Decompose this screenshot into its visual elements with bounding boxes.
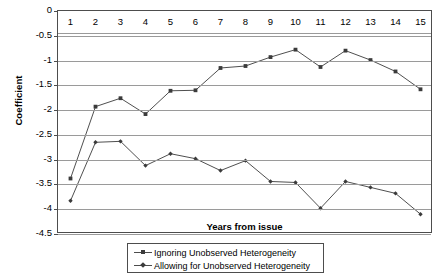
data-point-marker bbox=[244, 64, 248, 68]
legend-marker-diamond-icon bbox=[132, 260, 154, 271]
data-point-marker bbox=[168, 152, 172, 156]
gridline bbox=[58, 36, 431, 37]
gridline bbox=[58, 110, 431, 111]
data-point-marker bbox=[93, 140, 97, 144]
y-axis-tick-label: -2.5 bbox=[16, 129, 52, 139]
x-axis-title: Years from issue bbox=[57, 221, 432, 232]
gridline bbox=[58, 135, 431, 136]
y-axis-tick-label: -0.5 bbox=[16, 30, 52, 40]
data-point-marker bbox=[144, 112, 148, 116]
gridline bbox=[58, 160, 431, 161]
y-axis-tick-label: -1 bbox=[16, 55, 52, 65]
data-point-marker bbox=[169, 89, 173, 93]
y-axis-tick-label: -3 bbox=[16, 154, 52, 164]
legend-label: Allowing for Unobserved Heterogeneity bbox=[154, 261, 310, 271]
data-point-marker bbox=[119, 96, 123, 100]
y-axis-tickmark bbox=[54, 160, 58, 161]
legend-item: Allowing for Unobserved Heterogeneity bbox=[132, 259, 323, 272]
chart-figure: Coefficient 0-0.5-1-1.5-2-2.5-3-3.5-4-4.… bbox=[0, 0, 444, 279]
y-axis-tickmark bbox=[54, 135, 58, 136]
y-axis-tick-label: -3.5 bbox=[16, 178, 52, 188]
data-point-marker bbox=[94, 105, 98, 109]
data-point-marker bbox=[419, 87, 423, 91]
y-axis-tickmark bbox=[54, 36, 58, 37]
y-axis-tickmark bbox=[54, 209, 58, 210]
data-point-marker bbox=[218, 168, 222, 172]
y-axis-tickmark bbox=[54, 110, 58, 111]
gridline bbox=[58, 85, 431, 86]
data-point-marker bbox=[269, 55, 273, 59]
data-point-marker bbox=[69, 177, 73, 181]
gridline bbox=[58, 234, 431, 235]
data-point-marker bbox=[194, 88, 198, 92]
series-lines bbox=[58, 11, 433, 234]
y-axis-tickmark bbox=[54, 85, 58, 86]
y-axis-tickmark bbox=[54, 184, 58, 185]
y-axis-tick-label: -1.5 bbox=[16, 79, 52, 89]
gridline bbox=[58, 184, 431, 185]
chart-legend: Ignoring Unobserved Heterogeneity Allowi… bbox=[127, 243, 324, 273]
y-axis-tick-labels: 0-0.5-1-1.5-2-2.5-3-3.5-4-4.5 bbox=[12, 0, 52, 240]
y-axis-tick-label: -2 bbox=[16, 104, 52, 114]
legend-label: Ignoring Unobserved Heterogeneity bbox=[154, 248, 296, 258]
y-axis-tick-label: 0 bbox=[16, 5, 52, 15]
legend-item: Ignoring Unobserved Heterogeneity bbox=[132, 246, 323, 259]
data-point-marker bbox=[68, 199, 72, 203]
gridline bbox=[58, 61, 431, 62]
y-axis-tickmark bbox=[54, 61, 58, 62]
gridline bbox=[58, 209, 431, 210]
y-axis-tickmark bbox=[54, 11, 58, 12]
data-point-marker bbox=[294, 48, 298, 52]
data-point-marker bbox=[368, 185, 372, 189]
y-axis-tickmark bbox=[54, 234, 58, 235]
plot-area: 123456789101112131415 bbox=[57, 10, 432, 233]
data-point-marker bbox=[319, 65, 323, 69]
data-point-marker bbox=[344, 49, 348, 53]
legend-marker-square-icon bbox=[132, 247, 154, 258]
data-point-marker bbox=[394, 70, 398, 74]
y-axis-tick-label: -4.5 bbox=[16, 228, 52, 238]
y-axis-tick-label: -4 bbox=[16, 203, 52, 213]
data-point-marker bbox=[219, 66, 223, 70]
series-line bbox=[71, 141, 421, 214]
